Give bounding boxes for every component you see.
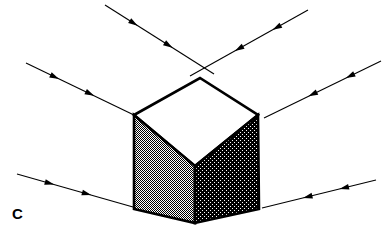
ray-lower-right-arrowhead-1 [340, 184, 350, 190]
ray-upper-left [105, 5, 214, 74]
panel-label-c: C [12, 206, 23, 221]
ray-lower-left-arrowhead-2 [81, 190, 91, 196]
ray-upper-right-arrowhead-2 [235, 44, 245, 51]
ray-upper-left-arrowhead-2 [163, 40, 173, 48]
ray-middle-right-arrowhead-1 [346, 71, 356, 78]
ray-middle-right-line [264, 61, 381, 118]
ray-middle-left-arrowhead-2 [84, 89, 94, 96]
figure-panel: C [0, 0, 391, 242]
ray-middle-left-arrowhead-1 [49, 72, 59, 79]
ray-lower-left [17, 174, 133, 207]
ray-upper-right-arrowhead-1 [273, 23, 283, 30]
ray-lower-left-arrowhead-1 [44, 179, 54, 185]
ray-lower-right [262, 180, 376, 208]
ray-middle-left [26, 63, 136, 116]
ray-upper-left-arrowhead-1 [128, 18, 138, 26]
figure-canvas [0, 0, 391, 242]
ray-lower-right-arrowhead-2 [303, 193, 313, 199]
ray-upper-right-line [190, 10, 308, 76]
ray-middle-left-line [26, 63, 136, 116]
ray-upper-right [190, 10, 308, 76]
ray-upper-left-line [105, 5, 214, 74]
shaded-isometric-cube [134, 78, 259, 223]
ray-lower-right-line [262, 180, 376, 208]
ray-lower-left-line [17, 174, 133, 207]
ray-middle-right-arrowhead-2 [308, 90, 318, 97]
ray-middle-right [264, 61, 381, 118]
